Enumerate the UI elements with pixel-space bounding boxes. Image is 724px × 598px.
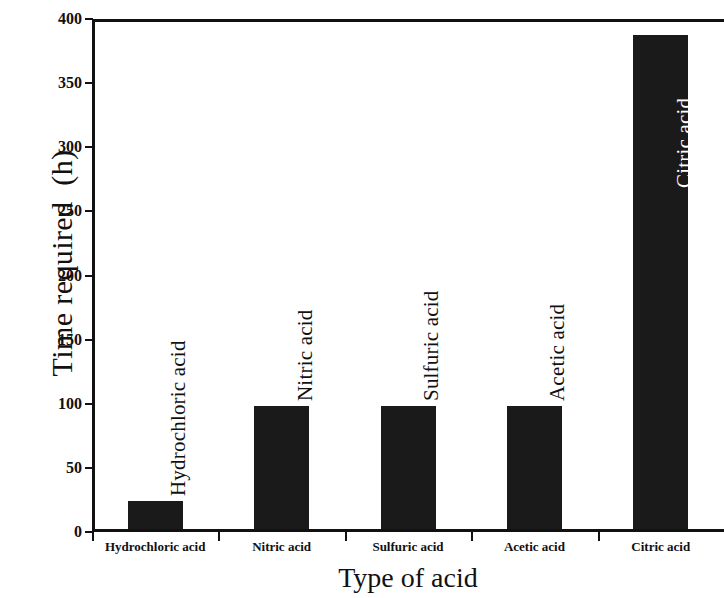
x-axis-category-label: Sulfuric acid bbox=[345, 539, 471, 555]
y-axis-tick-mark bbox=[85, 339, 93, 341]
y-axis-tick-mark bbox=[85, 18, 93, 20]
y-axis-tick-label: 300 bbox=[36, 138, 82, 156]
bar-value-label: Citric acid bbox=[672, 98, 697, 188]
y-axis-tick-mark bbox=[85, 210, 93, 212]
y-axis-tick-mark bbox=[85, 467, 93, 469]
y-axis-tick-label: 150 bbox=[36, 331, 82, 349]
axis-spine-bottom bbox=[92, 529, 724, 532]
x-axis-category-label: Nitric acid bbox=[218, 539, 344, 555]
y-axis-tick-label: 350 bbox=[36, 74, 82, 92]
bar bbox=[128, 501, 183, 529]
x-axis-title: Type of acid bbox=[92, 562, 724, 594]
bar-value-label: Sulfuric acid bbox=[419, 290, 444, 400]
bar-chart-figure: Time required (h) 0501001502002503003504… bbox=[0, 0, 724, 598]
y-axis-tick-label: 100 bbox=[36, 395, 82, 413]
bar-value-label: Nitric acid bbox=[293, 309, 318, 400]
x-axis-category-label: Hydrochloric acid bbox=[92, 539, 218, 555]
x-axis-category-labels: Hydrochloric acidNitric acidSulfuric aci… bbox=[92, 539, 724, 561]
y-axis-tick-mark bbox=[85, 531, 93, 533]
y-axis-tick-mark bbox=[85, 275, 93, 277]
y-axis-tick-label: 50 bbox=[36, 459, 82, 477]
y-axis-tick-labels: 050100150200250300350400 bbox=[36, 0, 82, 598]
bar bbox=[507, 406, 562, 529]
y-axis-tick-mark bbox=[85, 82, 93, 84]
y-axis-tick-label: 400 bbox=[36, 10, 82, 28]
bar-value-label: Acetic acid bbox=[545, 304, 570, 401]
bar bbox=[254, 406, 309, 529]
x-axis-category-label: Citric acid bbox=[598, 539, 724, 555]
y-axis-tick-mark bbox=[85, 146, 93, 148]
y-axis-tick-label: 250 bbox=[36, 202, 82, 220]
axis-spine-top bbox=[92, 19, 724, 22]
y-axis-tick-mark bbox=[85, 403, 93, 405]
y-axis-tick-label: 200 bbox=[36, 267, 82, 285]
bar-value-label: Hydrochloric acid bbox=[166, 340, 191, 496]
x-axis-category-label: Acetic acid bbox=[471, 539, 597, 555]
y-axis-tick-label: 0 bbox=[36, 523, 82, 541]
bar bbox=[381, 406, 436, 529]
plot-area: Hydrochloric acidNitric acidSulfuric aci… bbox=[92, 19, 724, 532]
